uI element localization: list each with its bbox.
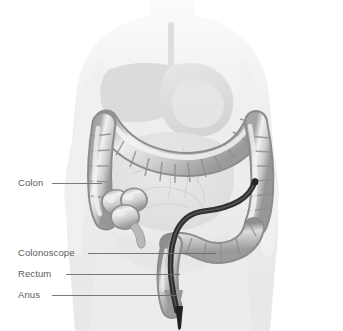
label-colonoscope: Colonoscope (18, 248, 75, 258)
descending-colon (250, 122, 272, 224)
label-rectum: Rectum (18, 269, 51, 279)
anatomy-illustration (0, 0, 343, 331)
colonoscopy-figure: Colon Colonoscope Rectum Anus (0, 0, 343, 331)
label-anus: Anus (18, 290, 40, 300)
label-colon: Colon (18, 178, 43, 188)
